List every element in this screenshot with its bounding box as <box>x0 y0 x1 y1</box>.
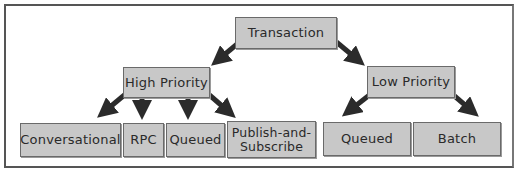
node-conversational: Conversational <box>20 123 121 157</box>
node-label: Conversational <box>20 133 120 147</box>
node-label: Low Priority <box>372 75 450 89</box>
node-low-priority: Low Priority <box>367 66 455 98</box>
node-queued-low: Queued <box>323 122 411 156</box>
arrow-transaction-to-low-priority <box>334 40 358 60</box>
node-batch: Batch <box>413 122 501 156</box>
node-label: RPC <box>130 133 157 147</box>
node-label: High Priority <box>125 76 208 90</box>
node-transaction: Transaction <box>235 17 337 49</box>
node-label: Batch <box>438 132 476 146</box>
node-queued-high: Queued <box>166 123 225 157</box>
node-label: Queued <box>169 133 221 147</box>
node-label-line1: Publish-and- <box>232 126 312 140</box>
node-rpc: RPC <box>123 123 164 157</box>
node-label: Transaction <box>248 26 325 40</box>
node-label: Queued <box>341 132 393 146</box>
node-label-line2: Subscribe <box>240 140 303 154</box>
node-publish-and-subscribe: Publish-and- Subscribe <box>227 121 316 158</box>
node-high-priority: High Priority <box>123 67 210 98</box>
